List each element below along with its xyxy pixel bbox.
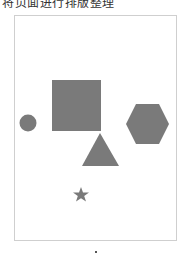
page-indicator-dot [95,251,97,253]
circle-shape[interactable] [20,115,37,132]
hexagon-shape[interactable] [126,104,169,144]
star-shape[interactable] [73,187,89,202]
shapes-canvas [0,0,194,258]
triangle-shape[interactable] [82,133,119,166]
square-shape[interactable] [52,80,101,131]
